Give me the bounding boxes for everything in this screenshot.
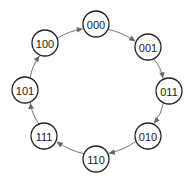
state-node-000: 000 — [83, 11, 109, 37]
node-label: 111 — [36, 131, 53, 143]
node-label: 110 — [87, 154, 105, 166]
node-label: 010 — [139, 131, 157, 143]
node-label: 000 — [87, 19, 105, 31]
nodes-layer: 000001011010110111101100 — [12, 11, 182, 172]
state-diagram: 000001011010110111101100 — [0, 0, 190, 181]
arrowhead-icon — [154, 117, 160, 123]
arrowhead-icon — [34, 56, 40, 62]
node-label: 011 — [160, 86, 178, 98]
node-label: 001 — [139, 42, 157, 54]
state-node-001: 001 — [135, 34, 161, 60]
state-node-110: 110 — [83, 146, 109, 172]
node-label: 100 — [36, 38, 54, 50]
state-node-011: 011 — [156, 78, 182, 104]
state-node-101: 101 — [12, 77, 38, 103]
state-node-111: 111 — [31, 123, 57, 149]
arrowhead-icon — [28, 103, 34, 109]
state-node-100: 100 — [32, 30, 58, 56]
arrowhead-icon — [109, 149, 115, 154]
node-label: 101 — [16, 85, 34, 97]
state-node-010: 010 — [135, 123, 161, 149]
arrowhead-icon — [57, 142, 64, 148]
arrowhead-icon — [159, 72, 165, 78]
arrowhead-icon — [129, 36, 136, 42]
arrowhead-icon — [77, 27, 83, 33]
